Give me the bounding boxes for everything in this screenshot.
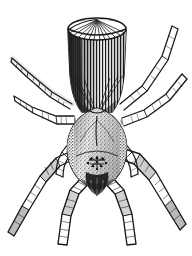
eye [96, 168, 98, 170]
spider-illustration-figure [0, 0, 192, 256]
eye [92, 165, 94, 167]
eye [105, 162, 108, 165]
eye [90, 158, 93, 161]
eye [102, 158, 105, 161]
spider-engraving [0, 0, 192, 256]
abdomen [66, 18, 128, 116]
eye [100, 165, 102, 167]
eye [87, 162, 90, 165]
eye [96, 157, 99, 160]
